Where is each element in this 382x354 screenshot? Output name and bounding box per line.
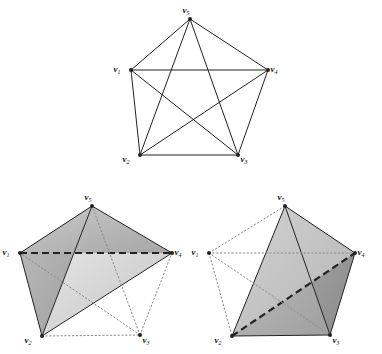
vertex-label-v5: v5	[278, 192, 285, 203]
vertex-label-v3: v3	[333, 335, 340, 346]
vertex-label-subscript: 3	[146, 340, 150, 346]
top-vertex-dots	[129, 17, 270, 157]
edge-v2-v4-solid	[140, 70, 268, 155]
vertex-label-v3: v3	[241, 154, 248, 165]
vertex-label-subscript: 4	[275, 69, 278, 75]
edge-v3-v4-solid	[238, 70, 268, 155]
vertex-label-v4: v4	[175, 247, 182, 258]
vertex-dot-v1	[129, 68, 133, 72]
panel-realization-right: v1v2v3v4v5	[192, 192, 365, 346]
vertex-dot-v5	[188, 17, 192, 21]
vertex-label-subscript: 3	[336, 340, 340, 346]
panel-realization-left: v1v2v3v4v5	[3, 192, 182, 346]
vertex-label-v5: v5	[85, 192, 92, 203]
vertex-dot-v5	[90, 204, 94, 208]
vertex-label-subscript: 4	[179, 252, 182, 258]
vertex-label-subscript: 2	[219, 340, 222, 346]
vertex-label-v2: v2	[215, 335, 222, 346]
vertex-dot-v5	[283, 204, 287, 208]
vertex-dot-v3	[236, 153, 240, 157]
vertex-label-subscript: 5	[282, 197, 285, 203]
edge-v3-v5-solid	[190, 19, 238, 155]
vertex-dot-v3	[138, 333, 142, 337]
edge-v2-v3-dotted	[42, 335, 140, 336]
vertex-label-v2: v2	[25, 335, 32, 346]
vertex-label-subscript: 1	[7, 252, 10, 258]
vertex-label-subscript: 2	[29, 340, 32, 346]
vertex-label-subscript: 5	[89, 197, 92, 203]
vertex-label-subscript: 2	[127, 159, 130, 165]
top-edges	[131, 19, 268, 155]
panel-complete-graph-k5: v1v2v3v4v5	[114, 5, 278, 165]
bottom-right-faces	[232, 206, 355, 336]
edge-v1-v3-solid	[131, 70, 238, 155]
vertex-dot-v4	[266, 68, 270, 72]
figure-canvas: v1v2v3v4v5 v1v2v3v4v5 v1v2v3v4v5	[0, 0, 382, 354]
vertex-label-v1: v1	[114, 64, 121, 75]
vertex-label-v4: v4	[271, 64, 278, 75]
vertex-label-subscript: 1	[118, 69, 121, 75]
edge-v1-v2-dotted	[209, 253, 232, 336]
vertex-label-subscript: 4	[362, 252, 365, 258]
vertex-dot-v4	[170, 251, 174, 255]
edge-v4-v5-solid	[190, 19, 268, 70]
vertex-dot-v4	[353, 251, 357, 255]
edge-v1-v2-solid	[131, 70, 140, 155]
vertex-dot-v2	[230, 334, 234, 338]
vertex-label-subscript: 1	[196, 252, 199, 258]
vertex-dot-v2	[138, 153, 142, 157]
vertex-dot-v1	[18, 251, 22, 255]
vertex-label-v2: v2	[123, 154, 130, 165]
bottom-left-faces	[20, 206, 172, 336]
vertex-dot-v1	[207, 251, 211, 255]
vertex-label-v1: v1	[192, 247, 199, 258]
vertex-label-v4: v4	[358, 247, 365, 258]
vertex-label-v3: v3	[143, 335, 150, 346]
vertex-label-v1: v1	[3, 247, 10, 258]
vertex-label-v5: v5	[183, 5, 190, 16]
vertex-label-subscript: 3	[244, 159, 248, 165]
vertex-dot-v3	[328, 333, 332, 337]
edge-v2-v5-solid	[140, 19, 190, 155]
figure-root: v1v2v3v4v5 v1v2v3v4v5 v1v2v3v4v5	[0, 0, 382, 354]
vertex-label-subscript: 5	[187, 10, 190, 16]
vertex-dot-v2	[40, 334, 44, 338]
face-v5-v4-v1	[20, 206, 172, 253]
